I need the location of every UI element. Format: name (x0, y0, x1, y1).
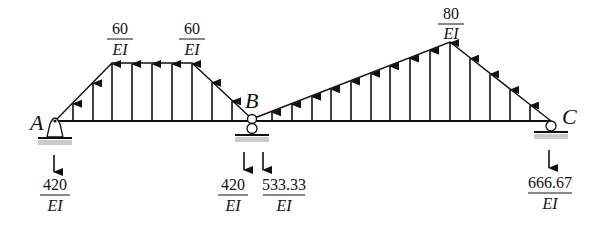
svg-text:EI: EI (46, 197, 63, 214)
point-label-b: B (245, 88, 258, 113)
svg-text:420: 420 (43, 176, 67, 193)
reaction-label-c: 666.67 EI (528, 174, 572, 212)
svg-text:EI: EI (442, 25, 459, 42)
svg-text:EI: EI (224, 197, 241, 214)
svg-text:533.33: 533.33 (262, 176, 306, 193)
svg-text:420: 420 (221, 176, 245, 193)
svg-text:80: 80 (443, 5, 459, 22)
point-label-a: A (28, 110, 44, 135)
svg-text:60: 60 (112, 20, 128, 37)
svg-text:EI: EI (183, 41, 200, 58)
conjugate-beam-diagram: A B C 60 EI 60 EI 80 EI 420 EI 420 EI 53… (0, 0, 599, 226)
hinge-roller-support-b (235, 115, 269, 143)
load-arrows (73, 43, 530, 121)
reaction-label-b-left: 420 EI (218, 176, 248, 214)
point-label-c: C (562, 104, 577, 129)
load-label-60-left: 60 EI (107, 20, 133, 58)
left-load-outline (55, 63, 252, 121)
svg-text:EI: EI (275, 197, 292, 214)
svg-text:EI: EI (111, 41, 128, 58)
load-label-60-right: 60 EI (179, 20, 205, 58)
svg-text:60: 60 (184, 20, 200, 37)
svg-text:666.67: 666.67 (528, 174, 572, 191)
reaction-label-a: 420 EI (40, 176, 70, 214)
right-load-outline (252, 42, 551, 121)
svg-text:EI: EI (541, 195, 558, 212)
reaction-label-b-right: 533.33 EI (262, 176, 306, 214)
load-label-80-peak: 80 EI (438, 5, 464, 42)
